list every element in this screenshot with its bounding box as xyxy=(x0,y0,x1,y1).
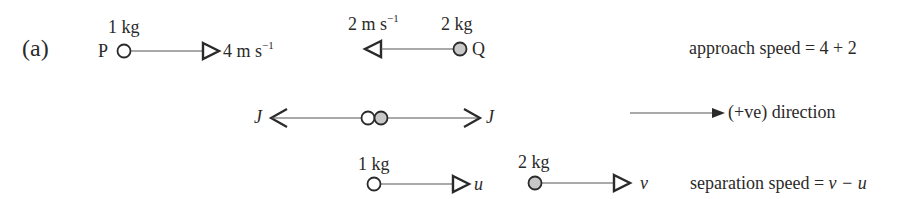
impact-impulses: J J xyxy=(254,107,495,127)
before-particle-q: 2 m s−1 2 kg Q xyxy=(348,12,485,59)
p-mass-label: 1 kg xyxy=(108,17,140,37)
particle-q-ball xyxy=(454,43,467,56)
p-name-label: P xyxy=(98,41,108,61)
after-p-mass-label: 1 kg xyxy=(358,154,390,174)
p-velocity-arrowhead-icon xyxy=(203,43,219,59)
impulse-left-label: J xyxy=(254,107,263,127)
q-mass-label: 2 kg xyxy=(441,14,473,34)
after-particle-p-ball xyxy=(368,178,381,191)
after-p-arrowhead-icon xyxy=(453,176,469,192)
q-velocity-arrowhead-icon xyxy=(365,41,381,57)
after-q-arrowhead-icon xyxy=(614,175,630,191)
q-name-label: Q xyxy=(472,39,485,59)
after-q-mass-label: 2 kg xyxy=(518,152,550,172)
positive-direction-label: (+ve) direction xyxy=(728,102,836,123)
positive-direction-indicator: (+ve) direction xyxy=(630,102,836,123)
positive-direction-arrowhead-icon xyxy=(712,108,725,118)
approach-speed-text: approach speed = 4 + 2 xyxy=(689,38,857,58)
separation-speed-text: separation speed = v − u xyxy=(690,173,867,193)
part-label: (a) xyxy=(22,35,49,61)
collision-diagram: (a) 1 kg P 4 m s−1 2 m s−1 2 kg Q approa… xyxy=(0,0,908,199)
q-velocity-label: 2 m s−1 xyxy=(348,12,399,34)
after-q-velocity-label: v xyxy=(640,173,648,193)
impact-ball-p xyxy=(362,112,375,125)
before-particle-p: 1 kg P 4 m s−1 xyxy=(98,17,274,61)
after-particle-p: 1 kg u xyxy=(358,154,483,194)
impact-ball-q xyxy=(375,112,388,125)
after-particle-q: 2 kg v xyxy=(518,152,648,193)
p-velocity-label: 4 m s−1 xyxy=(223,39,274,61)
after-particle-q-ball xyxy=(529,177,542,190)
particle-p-ball xyxy=(118,45,131,58)
after-p-velocity-label: u xyxy=(474,174,483,194)
impulse-right-label: J xyxy=(486,107,495,127)
